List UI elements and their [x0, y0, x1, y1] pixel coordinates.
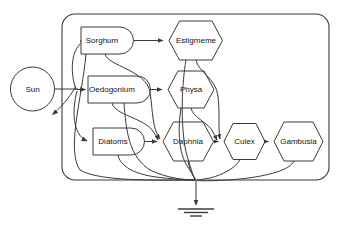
node-oedogonium[interactable] [88, 76, 151, 103]
flow-sun-to-diatoms [74, 91, 87, 141]
node-sorghum[interactable] [81, 27, 134, 54]
node-estigmeme[interactable] [169, 21, 223, 60]
node-diatoms[interactable] [93, 128, 145, 155]
ground-sink-symbol [178, 209, 214, 216]
node-sun[interactable] [11, 67, 55, 111]
node-daphnia[interactable] [163, 122, 214, 161]
node-gambusia[interactable] [274, 122, 323, 161]
flow-culex-respiration [197, 160, 240, 181]
energy-flow-diagram: Sun Sorghum Oedogonium Diatoms Estigmeme… [0, 0, 337, 229]
diagram-canvas: Sun Sorghum Oedogonium Diatoms Estigmeme… [0, 0, 337, 229]
node-culex[interactable] [224, 124, 265, 160]
flow-sun-to-reflected-energy-loss [53, 86, 77, 115]
